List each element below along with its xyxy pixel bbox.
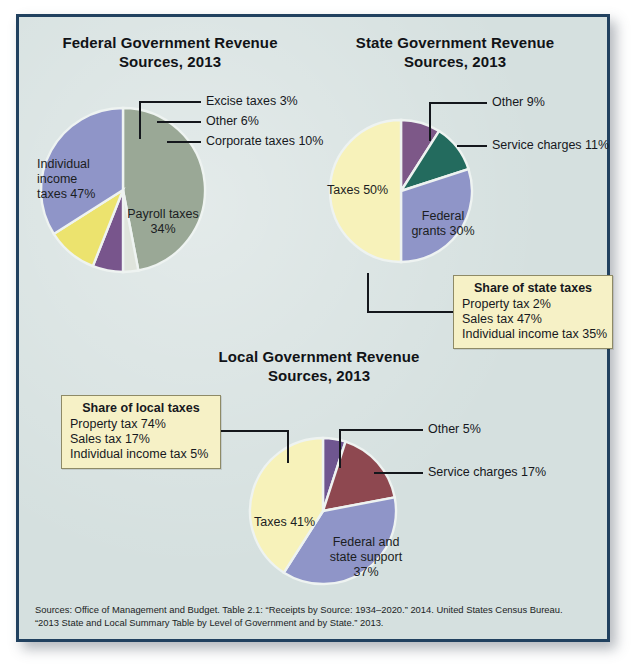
federal-leader-label-corporate-taxes: Corporate taxes 10% (206, 134, 323, 149)
local-chart-title: Local Government Revenue Sources, 2013 (194, 347, 444, 385)
federal-title-line2: Sources, 2013 (45, 52, 295, 71)
local-leader-other-vertical (339, 429, 341, 468)
federal-leader-excise-horizontal (139, 101, 201, 103)
local-callout-title: Share of local taxes (70, 400, 212, 416)
state-leader-other-vertical (429, 102, 431, 141)
local-label-federal-and-state-support: Federal and state support 37% (320, 535, 412, 580)
local-callout-row-individual-income-tax: Individual income tax 5% (70, 447, 212, 462)
local-callout-row-property-tax: Property tax 74% (70, 417, 212, 432)
federal-chart-title: Federal Government Revenue Sources, 2013 (45, 33, 295, 71)
sources-line-2: “2013 State and Local Summary Table by L… (35, 616, 593, 629)
state-callout-row-individual-income-tax: Individual income tax 35% (462, 327, 604, 342)
local-title-line2: Sources, 2013 (194, 366, 444, 385)
state-leader-label-service-charges: Service charges 11% (492, 138, 609, 153)
state-label-taxes: Taxes 50% (327, 183, 407, 198)
figure-frame: Federal Government Revenue Sources, 2013… (16, 14, 610, 642)
federal-label-individual-income-taxes: Individual income taxes 47% (37, 157, 123, 202)
state-taxes-callout: Share of state taxes Property tax 2% Sal… (453, 275, 613, 349)
local-taxes-callout: Share of local taxes Property tax 74% Sa… (61, 395, 221, 469)
state-callout-title: Share of state taxes (462, 280, 604, 296)
federal-leader-other (157, 121, 201, 123)
local-leader-other-horizontal (339, 429, 423, 431)
local-leader-callout-horizontal (219, 430, 289, 432)
federal-label-payroll-taxes: Payroll taxes 34% (117, 207, 209, 237)
local-callout-row-sales-tax: Sales tax 17% (70, 432, 212, 447)
federal-leader-excise-vertical (139, 101, 141, 139)
sources-note: Sources: Office of Management and Budget… (35, 603, 593, 629)
local-label-taxes: Taxes 41% (254, 515, 338, 530)
state-leader-label-other: Other 9% (492, 95, 545, 110)
federal-leader-label-excise-taxes: Excise taxes 3% (206, 94, 298, 109)
state-title-line2: Sources, 2013 (335, 52, 575, 71)
state-title-line1: State Government Revenue (335, 33, 575, 52)
local-leader-service-charges (374, 472, 423, 474)
state-callout-row-sales-tax: Sales tax 47% (462, 312, 604, 327)
state-chart-title: State Government Revenue Sources, 2013 (335, 33, 575, 71)
state-label-federal-grants: Federal grants 30% (401, 209, 485, 239)
federal-leader-corporate (167, 141, 201, 143)
sources-line-1: Sources: Office of Management and Budget… (35, 603, 593, 616)
figure-root: Federal Government Revenue Sources, 2013… (0, 0, 634, 670)
state-leader-callout-horizontal (367, 311, 455, 313)
federal-leader-label-other: Other 6% (206, 114, 259, 129)
state-leader-service-charges (457, 145, 487, 147)
local-leader-callout-vertical (287, 430, 289, 463)
state-callout-row-property-tax: Property tax 2% (462, 297, 604, 312)
local-title-line1: Local Government Revenue (194, 347, 444, 366)
state-leader-other-horizontal (429, 102, 487, 104)
state-leader-callout-vertical (367, 273, 369, 312)
federal-title-line1: Federal Government Revenue (45, 33, 295, 52)
local-leader-label-other: Other 5% (428, 422, 481, 437)
local-leader-label-service-charges: Service charges 17% (428, 465, 546, 480)
federal-slice-individual-income-taxes (123, 108, 205, 271)
